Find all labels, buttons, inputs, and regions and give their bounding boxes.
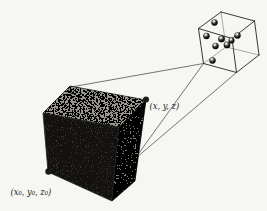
point-xyz-label: (x, y, z) [150,101,180,111]
molecule-sphere [224,42,230,48]
figure-page: (x, y, z) (x₀, y₀, z₀) [0,0,267,211]
molecule-sphere [209,57,215,63]
molecule-sphere [203,33,209,39]
molecule-sphere [234,32,240,38]
origin-label: (x₀, y₀, z₀) [11,187,52,197]
molecule-sphere [212,43,218,49]
point-xyz-marker [143,97,149,103]
molecule-sphere [211,19,217,25]
molecule-sphere [229,38,235,44]
molecule-sphere [218,36,224,42]
origin-marker [45,168,51,174]
continuum-zoom-diagram: (x, y, z) (x₀, y₀, z₀) [0,0,267,211]
